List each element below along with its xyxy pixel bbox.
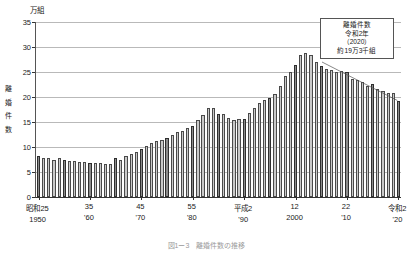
callout-line-1: 離婚件数 bbox=[322, 21, 392, 30]
callout-line-3: （2020） bbox=[322, 38, 392, 47]
divorce-count-chart: 万組 離 婚 件 数 05101520253035 昭和25195035'604… bbox=[0, 0, 413, 254]
callout-line-4: 約19万3千組 bbox=[322, 47, 392, 56]
callout-line-2: 令和2年 bbox=[322, 30, 392, 39]
peak-2020-callout: 離婚件数 令和2年 （2020） 約19万3千組 bbox=[320, 18, 394, 59]
